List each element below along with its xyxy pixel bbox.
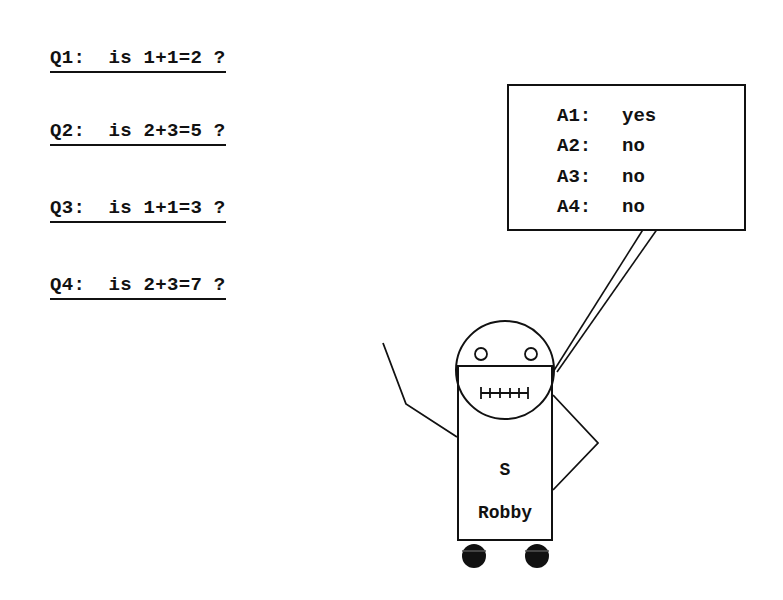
robot-left-eye-icon bbox=[475, 348, 487, 360]
speech-bubble: A1:yes A2:no A3:no A4:no bbox=[507, 84, 746, 231]
answer-1: A1:yes bbox=[557, 105, 591, 127]
robot-right-arm bbox=[553, 395, 598, 490]
answer-3: A3:no bbox=[557, 166, 591, 188]
answer-label: A2: bbox=[557, 135, 591, 157]
speech-bubble-tail bbox=[553, 228, 658, 372]
robot-right-wheel-icon bbox=[525, 544, 549, 568]
answer-value: no bbox=[622, 135, 645, 157]
answer-label: A4: bbox=[557, 196, 591, 218]
robot-right-eye-icon bbox=[525, 348, 537, 360]
robot-badge: S bbox=[458, 460, 552, 480]
robot-name: Robby bbox=[458, 503, 552, 523]
answer-4: A4:no bbox=[557, 196, 591, 218]
answer-2: A2:no bbox=[557, 135, 591, 157]
robot-left-arm bbox=[383, 343, 457, 437]
answer-value: no bbox=[622, 166, 645, 188]
answer-value: yes bbox=[622, 105, 656, 127]
answer-label: A3: bbox=[557, 166, 591, 188]
answer-value: no bbox=[622, 196, 645, 218]
robot-left-wheel-icon bbox=[462, 544, 486, 568]
answer-label: A1: bbox=[557, 105, 591, 127]
